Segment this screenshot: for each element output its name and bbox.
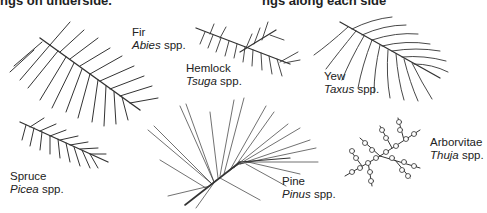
genus-name: Taxus (324, 83, 354, 95)
common-name: Arborvitae (430, 136, 484, 149)
arborvitae-branch-icon (345, 118, 420, 186)
genus-name: Picea (10, 183, 39, 195)
genus-name: Pinus (282, 188, 311, 200)
common-name: Fir (132, 26, 186, 39)
spruce-branch-icon (20, 118, 108, 168)
genus-name: Tsuga (186, 75, 217, 87)
spruce-label: Spruce Picea spp. (10, 170, 64, 196)
common-name: Spruce (10, 170, 64, 183)
fir-label: Fir Abies spp. (132, 26, 186, 52)
spp-suffix: spp. (459, 149, 484, 161)
spp-suffix: spp. (311, 188, 336, 200)
common-name: Hemlock (186, 62, 242, 75)
conifer-illustrations (0, 0, 487, 213)
spp-suffix: spp. (354, 83, 379, 95)
spp-suffix: spp. (217, 75, 242, 87)
yew-label: Yew Taxus spp. (324, 70, 379, 96)
spp-suffix: spp. (39, 183, 64, 195)
pine-label: Pine Pinus spp. (282, 175, 336, 201)
hemlock-label: Hemlock Tsuga spp. (186, 62, 242, 88)
genus-name: Thuja (430, 149, 459, 161)
common-name: Yew (324, 70, 379, 83)
common-name: Pine (282, 175, 336, 188)
genus-name: Abies (132, 39, 161, 51)
arborvitae-label: Arborvitae Thuja spp. (430, 136, 484, 162)
spp-suffix: spp. (161, 39, 186, 51)
